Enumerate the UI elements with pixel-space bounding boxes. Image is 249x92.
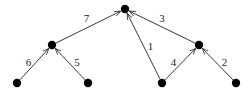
edge-label: 3: [159, 12, 165, 24]
node-leaf-1: [13, 79, 21, 87]
edge-label: 2: [222, 56, 228, 68]
node-left-mid: [48, 41, 56, 49]
edge-leaf-1-to-left-mid: [20, 48, 49, 79]
node-leaf-3: [158, 79, 166, 87]
edge-label: 5: [74, 56, 80, 68]
edge-leaf-3-to-right-mid: [165, 48, 196, 80]
edge-label: 4: [171, 56, 177, 68]
edge-label: 6: [26, 56, 32, 68]
edge-label: 7: [84, 12, 90, 24]
tree-diagram: 7316542: [0, 0, 249, 92]
node-right-mid: [195, 41, 203, 49]
node-leaf-2: [84, 79, 92, 87]
node-root: [121, 5, 129, 13]
edge-leaf-3-to-root: [127, 13, 160, 79]
edge-leaf-4-to-right-mid: [202, 48, 233, 80]
edge-label: 1: [148, 40, 154, 52]
node-leaf-4: [232, 79, 240, 87]
edge-leaf-2-to-left-mid: [55, 48, 85, 80]
